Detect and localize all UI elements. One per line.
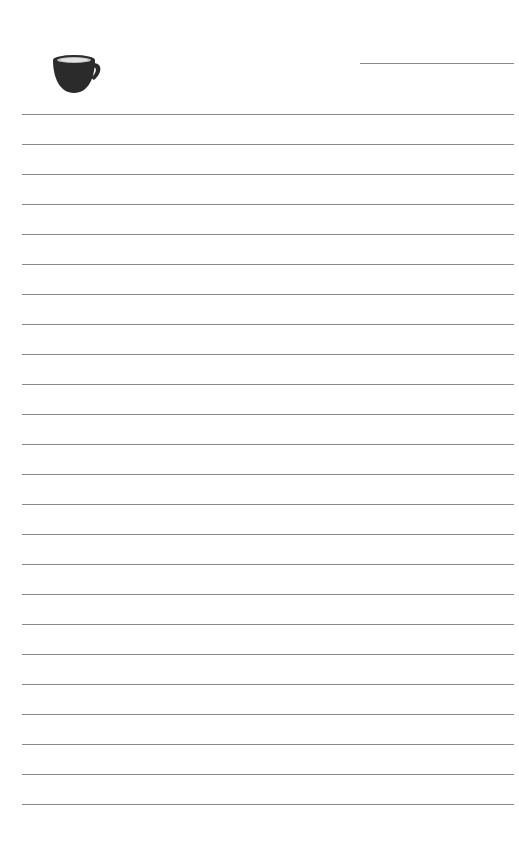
notepaper-page: [0, 0, 519, 850]
writing-line[interactable]: [22, 144, 514, 145]
writing-line[interactable]: [22, 174, 514, 175]
writing-line[interactable]: [22, 714, 514, 715]
writing-line[interactable]: [22, 384, 514, 385]
writing-line[interactable]: [22, 474, 514, 475]
writing-line[interactable]: [22, 294, 514, 295]
writing-line[interactable]: [22, 624, 514, 625]
writing-line[interactable]: [22, 774, 514, 775]
writing-line[interactable]: [22, 744, 514, 745]
writing-line[interactable]: [22, 654, 514, 655]
writing-line[interactable]: [22, 204, 514, 205]
writing-line[interactable]: [22, 414, 514, 415]
writing-line[interactable]: [22, 504, 514, 505]
writing-line[interactable]: [22, 444, 514, 445]
writing-line[interactable]: [22, 684, 514, 685]
writing-line[interactable]: [22, 354, 514, 355]
writing-line[interactable]: [22, 564, 514, 565]
writing-line[interactable]: [22, 324, 514, 325]
ruled-lines: [22, 0, 514, 850]
writing-line[interactable]: [22, 594, 514, 595]
writing-line[interactable]: [22, 534, 514, 535]
writing-line[interactable]: [22, 264, 514, 265]
writing-line[interactable]: [22, 804, 514, 805]
writing-line[interactable]: [22, 234, 514, 235]
writing-line[interactable]: [22, 114, 514, 115]
